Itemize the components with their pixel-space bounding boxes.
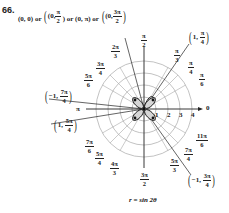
frac-num: π bbox=[141, 33, 147, 41]
frac-den: 4 bbox=[187, 155, 190, 162]
frac-num: 3π bbox=[140, 172, 149, 180]
angle-label-5pi-over-4: 5π4 bbox=[95, 151, 104, 166]
frac-num: π bbox=[188, 60, 194, 68]
origin-text: (0, 0) or bbox=[18, 15, 41, 23]
frac-num: 3π bbox=[96, 61, 105, 69]
angle-label-pi-over-2: π2 bbox=[141, 33, 147, 48]
point-label-1-5pi-over-4: (1, 5π4) bbox=[53, 118, 78, 133]
equation-caption: r = sin 2θ bbox=[129, 196, 157, 204]
frac-den: 4 bbox=[67, 126, 70, 133]
origin-point-label: (0, 0) or ((0, π2 ) or (0, π) or ((0, 3π… bbox=[18, 9, 126, 24]
or-text: ) or (0, π) or bbox=[63, 15, 99, 23]
frac-num: 3π bbox=[203, 173, 212, 181]
angle-label-3pi-over-2: 3π2 bbox=[140, 172, 149, 187]
angle-label-2pi-over-3: 2π3 bbox=[111, 44, 120, 59]
frac-num: π bbox=[200, 30, 206, 38]
frac-den: 4 bbox=[201, 38, 204, 45]
frac-num: π bbox=[55, 9, 61, 17]
angle-label-7pi-over-6: 7π6 bbox=[85, 139, 94, 154]
frac-den: 4 bbox=[98, 159, 101, 166]
radial-tick-1: 1 bbox=[155, 112, 159, 119]
angle-label-7pi-over-4: 7π4 bbox=[184, 147, 193, 162]
point-label-neg1-3pi-over-4: (−1, 3π4) bbox=[187, 173, 216, 188]
frac-den: 3 bbox=[114, 52, 117, 59]
frac-den: 2 bbox=[116, 17, 119, 24]
angle-label-pi: π bbox=[76, 106, 80, 113]
angle-label-pi-over-3: π3 bbox=[174, 48, 180, 63]
frac-den: 6 bbox=[87, 81, 90, 88]
coord-text: (0, bbox=[105, 13, 113, 20]
frac-den: 2 bbox=[142, 41, 145, 48]
frac-den: 4 bbox=[189, 68, 192, 75]
frac-num: π bbox=[174, 48, 180, 56]
frac-den: 2 bbox=[143, 180, 146, 187]
frac-num: 3π bbox=[113, 9, 122, 17]
angle-label-11pi-over-6: 11π6 bbox=[196, 133, 208, 148]
angle-label-pi-over-4: π4 bbox=[188, 60, 194, 75]
angle-label-5pi-over-3: 5π3 bbox=[170, 158, 179, 173]
angle-label-pi-over-6: π6 bbox=[199, 72, 205, 87]
frac-num: 4π bbox=[110, 161, 119, 169]
r-value: −1 bbox=[192, 177, 200, 184]
r-value: 1 bbox=[58, 122, 62, 129]
frac-num: π bbox=[199, 72, 205, 80]
frac-den: 4 bbox=[99, 69, 102, 76]
radial-tick-3: 3 bbox=[179, 112, 183, 119]
frac-den: 3 bbox=[173, 166, 176, 173]
frac-num: 5π bbox=[170, 158, 179, 166]
frac-num: 7π bbox=[85, 139, 94, 147]
frac-num: 2π bbox=[111, 44, 120, 52]
frac-den: 3 bbox=[175, 56, 178, 63]
r-value: 1 bbox=[193, 34, 197, 41]
frac-num: 5π bbox=[84, 73, 93, 81]
point-label-neg1-7pi-over-4: (−1, 7π4) bbox=[44, 89, 73, 104]
leader-lines bbox=[49, 38, 191, 175]
angle-label-5pi-over-6: 5π6 bbox=[84, 73, 93, 88]
angle-label-4pi-over-3: 4π3 bbox=[110, 161, 119, 176]
frac-num: 5π bbox=[65, 118, 74, 126]
frac-num: 11π bbox=[196, 133, 208, 141]
r-value: −1 bbox=[49, 93, 57, 100]
frac-num: 7π bbox=[60, 89, 69, 97]
radial-tick-4: 4 bbox=[191, 112, 195, 119]
frac-den: 6 bbox=[200, 141, 203, 148]
frac-den: 6 bbox=[88, 147, 91, 154]
point-label-1-pi-over-4: (1, π4) bbox=[188, 30, 210, 45]
frac-den: 4 bbox=[205, 181, 208, 188]
frac-num: 7π bbox=[184, 147, 193, 155]
frac-den: 4 bbox=[62, 97, 65, 104]
angle-label-3pi-over-4: 3π4 bbox=[96, 61, 105, 76]
frac-den: 2 bbox=[57, 17, 60, 24]
coord-text: (0, bbox=[48, 13, 56, 20]
frac-den: 6 bbox=[200, 80, 203, 87]
frac-num: 5π bbox=[95, 151, 104, 159]
radial-tick-2: 2 bbox=[167, 112, 171, 119]
frac-den: 3 bbox=[113, 169, 116, 176]
angle-label-0: 0 bbox=[206, 105, 210, 112]
